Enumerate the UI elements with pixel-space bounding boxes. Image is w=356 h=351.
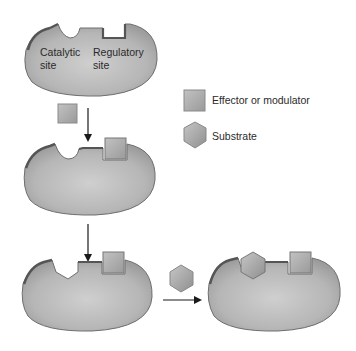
effector-bound bbox=[105, 138, 126, 159]
legend-substrate-icon bbox=[184, 122, 206, 148]
enzyme-state-2 bbox=[24, 138, 155, 215]
enzyme-state-4 bbox=[208, 252, 340, 331]
enzyme-body bbox=[208, 258, 340, 331]
legend bbox=[184, 90, 206, 148]
enzyme-body bbox=[24, 144, 155, 215]
enzyme-body bbox=[22, 260, 152, 331]
legend-substrate-label: Substrate bbox=[212, 130, 257, 142]
legend-effector-icon bbox=[184, 90, 205, 111]
substrate-free bbox=[170, 265, 193, 292]
effector-bound bbox=[290, 252, 311, 273]
catalytic-site-label: Catalytic site bbox=[40, 46, 80, 72]
legend-effector-label: Effector or modulator bbox=[212, 94, 310, 106]
effector-free bbox=[58, 104, 77, 123]
enzyme-state-3 bbox=[22, 252, 152, 331]
regulatory-site-label: Regulatory site bbox=[93, 46, 144, 72]
effector-bound bbox=[103, 252, 124, 273]
